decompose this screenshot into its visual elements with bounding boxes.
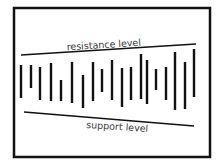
price-bars — [20, 49, 195, 110]
price-bar-16 — [165, 67, 167, 100]
price-bar-12 — [130, 67, 132, 100]
price-bar-14 — [146, 60, 148, 104]
resistance-label: resistance level — [66, 37, 141, 53]
price-bar-3 — [39, 67, 41, 100]
price-bar-11 — [121, 68, 123, 107]
price-bar-13 — [140, 54, 142, 99]
price-bar-7 — [82, 75, 84, 108]
price-bar-15 — [155, 69, 157, 90]
price-bar-1 — [20, 65, 22, 98]
price-bar-2 — [30, 65, 32, 88]
price-bar-4 — [50, 63, 52, 101]
price-bar-10 — [111, 60, 113, 100]
price-bar-17 — [174, 52, 176, 110]
broadening-formation-diagram: resistance level support level — [0, 0, 216, 161]
price-bar-6 — [71, 62, 73, 103]
price-bar-9 — [101, 69, 103, 92]
price-bar-19 — [193, 49, 195, 97]
price-bar-18 — [184, 62, 186, 109]
price-bar-5 — [60, 80, 62, 101]
price-bar-8 — [92, 62, 94, 101]
